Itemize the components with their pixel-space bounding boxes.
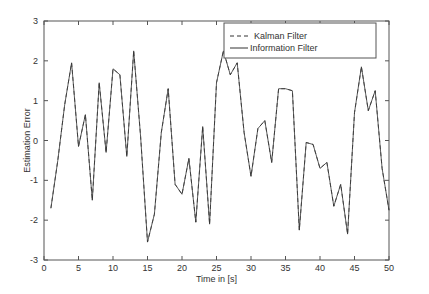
x-tick-label: 20: [177, 263, 187, 273]
y-tick-label: 0: [33, 136, 38, 146]
y-axis-label: Estimation Error: [22, 108, 32, 173]
y-tick-label: -1: [30, 175, 38, 185]
information-filter-line: [51, 51, 389, 242]
legend-label-information: Information Filter: [250, 43, 318, 53]
y-tick-label: 3: [33, 16, 38, 26]
x-tick-label: 30: [246, 263, 256, 273]
legend: Kalman Filter Information Filter: [224, 23, 376, 58]
x-tick-label: 45: [349, 263, 359, 273]
x-tick-label: 15: [142, 263, 152, 273]
y-tick-label: 1: [33, 96, 38, 106]
x-axis-label: Time in [s]: [196, 274, 237, 284]
x-tick-label: 50: [384, 263, 394, 273]
y-tick-label: -3: [30, 255, 38, 265]
line-chart: 05101520253035404550-3-2-10123 Kalman Fi…: [0, 0, 429, 294]
chart-container: 05101520253035404550-3-2-10123 Kalman Fi…: [0, 0, 429, 294]
kalman-filter-line: [51, 51, 389, 242]
y-tick-label: 2: [33, 56, 38, 66]
plot-lines: [51, 51, 389, 242]
x-tick-label: 40: [315, 263, 325, 273]
x-tick-label: 35: [280, 263, 290, 273]
x-tick-label: 10: [108, 263, 118, 273]
legend-label-kalman: Kalman Filter: [254, 31, 307, 41]
y-tick-label: -2: [30, 215, 38, 225]
x-tick-label: 5: [76, 263, 81, 273]
x-tick-label: 25: [211, 263, 221, 273]
x-tick-label: 0: [41, 263, 46, 273]
